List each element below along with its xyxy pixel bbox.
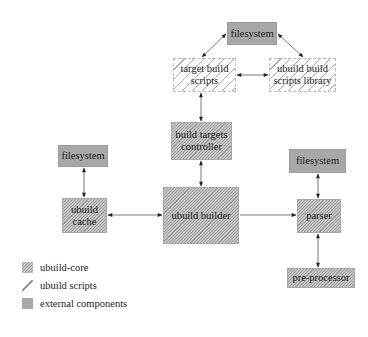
legend-swatch-external	[22, 298, 33, 309]
legend-item-ubuild-core: ubuild-core	[22, 262, 88, 273]
edge-filesystem-top-to-scripts-library	[278, 34, 303, 57]
edge-filesystem-top-to-target-scripts	[202, 34, 226, 57]
legend-item-ubuild-scripts: ubuild scripts	[22, 280, 97, 291]
architecture-diagram: filesystem target buildscripts ubuild bu…	[0, 0, 368, 337]
node-ubuild-cache: ubuildcache	[62, 198, 107, 233]
node-filesystem-left: filesystem	[58, 145, 108, 167]
node-ubuild-builder: ubuild builder	[163, 187, 239, 244]
node-filesystem-right: filesystem	[289, 149, 346, 173]
node-ubuild-build-scripts-library: ubuild buildscripts library	[269, 58, 336, 92]
node-filesystem-top: filesystem	[227, 22, 277, 45]
legend-item-external-components: external components	[22, 298, 127, 309]
node-target-build-scripts: target buildscripts	[173, 58, 236, 92]
legend-swatch-scripts	[22, 280, 33, 291]
node-build-targets-controller: build targetscontroller	[171, 122, 232, 160]
node-pre-processor: pre-processor	[287, 268, 355, 288]
node-parser: parser	[297, 199, 341, 233]
legend-swatch-core	[22, 262, 33, 273]
